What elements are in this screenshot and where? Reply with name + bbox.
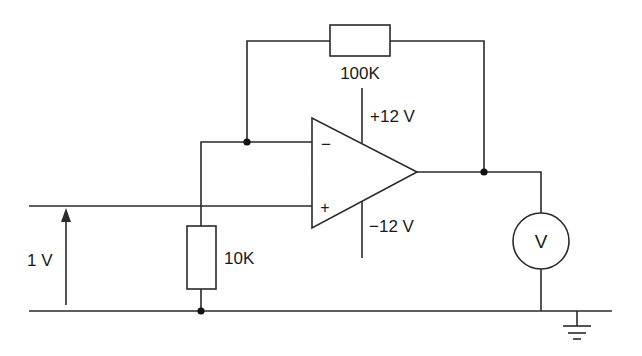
positive-supply-label: +12 V <box>370 107 416 126</box>
input-voltage-label: 1 V <box>27 251 53 270</box>
input-voltage-arrow-icon <box>61 208 71 305</box>
output-wire <box>417 172 541 213</box>
negative-supply-label: −12 V <box>369 217 415 236</box>
circuit-diagram: 100K +12 V −12 V − + V 10K <box>0 0 642 356</box>
non-inverting-input-sign: + <box>320 199 329 216</box>
voltmeter-label: V <box>535 231 548 252</box>
op-amp: − + <box>312 118 417 228</box>
ground-icon <box>563 311 591 339</box>
inverting-input-wire <box>201 142 312 226</box>
feedback-resistor-label: 100K <box>340 64 380 83</box>
ground-resistor: 10K <box>187 226 255 289</box>
feedback-resistor: 100K <box>330 25 390 83</box>
ground-resistor-label: 10K <box>224 249 255 268</box>
ground-junction-dot <box>197 307 204 314</box>
inverting-input-sign: − <box>321 135 331 154</box>
junction-dot <box>243 138 250 145</box>
voltmeter: V <box>513 213 569 269</box>
output-junction-dot <box>480 168 487 175</box>
